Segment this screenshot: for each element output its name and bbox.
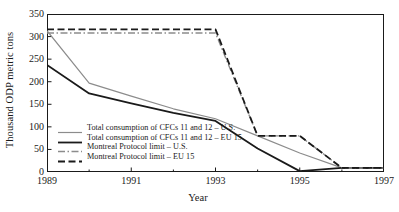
legend-item: Total consumption of CFCs 11 and 12 – EU… <box>58 133 243 143</box>
legend-item: Total consumption of CFCs 11 and 12 – U.… <box>58 123 243 133</box>
x-tick-label: 1991 <box>111 176 151 186</box>
legend-label: Total consumption of CFCs 11 and 12 – EU… <box>87 133 242 142</box>
y-tick-label: 150 <box>18 99 44 109</box>
legend-swatch-icon <box>58 123 82 132</box>
x-tick-label: 1995 <box>280 176 320 186</box>
y-tick-label: 100 <box>18 122 44 132</box>
legend-item: Montreal Protocol limit – EU 15 <box>58 152 243 162</box>
y-tick-label: 350 <box>18 9 44 19</box>
legend-label: Montreal Protocol limit – U.S. <box>87 142 188 151</box>
x-tick-label: 1989 <box>27 176 67 186</box>
legend-swatch-icon <box>58 152 82 161</box>
x-axis-title: Year <box>18 192 378 203</box>
y-tick-label: 300 <box>18 32 44 42</box>
y-tick-label: 50 <box>18 144 44 154</box>
legend-swatch-icon <box>58 133 82 142</box>
legend-label: Total consumption of CFCs 11 and 12 – U.… <box>87 123 235 132</box>
x-tick-label: 1993 <box>196 176 236 186</box>
legend-item: Montreal Protocol limit – U.S. <box>58 142 243 152</box>
x-tick-label: 1997 <box>364 176 399 186</box>
legend-swatch-icon <box>58 142 82 151</box>
chart-legend: Total consumption of CFCs 11 and 12 – U.… <box>58 123 243 161</box>
y-axis-title: Thousand ODP metric tons <box>2 4 18 176</box>
legend-label: Montreal Protocol limit – EU 15 <box>87 152 194 161</box>
y-tick-label: 200 <box>18 77 44 87</box>
y-tick-label: 250 <box>18 54 44 64</box>
